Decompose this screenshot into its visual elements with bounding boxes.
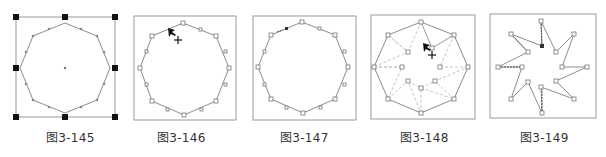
handle-top-right — [112, 14, 118, 20]
handle-right — [112, 65, 118, 71]
frame — [253, 16, 356, 120]
caption-fig-146: 图3-146 — [157, 128, 206, 145]
handle-bottom — [62, 114, 68, 120]
pen-cursor-icon — [423, 43, 436, 59]
caption-fig-145: 图3-145 — [46, 128, 95, 145]
caption-fig-147: 图3-147 — [280, 128, 329, 145]
anchor-points — [256, 20, 350, 115]
caption-fig-149: 图3-149 — [520, 128, 569, 145]
figure-3-145 — [13, 14, 118, 120]
frame — [490, 14, 596, 118]
frame — [134, 16, 236, 120]
selected-anchor-point — [540, 44, 544, 48]
pen-cursor-icon — [168, 28, 182, 44]
figure-3-148 — [371, 15, 475, 119]
handle-top-left — [13, 14, 19, 20]
figure-3-149 — [490, 14, 596, 118]
figure-3-147 — [253, 16, 356, 120]
handle-top — [62, 14, 68, 20]
anchor-points — [138, 21, 231, 117]
handle-bottom-left — [13, 114, 19, 120]
handle-bottom-right — [112, 114, 118, 120]
center-point — [64, 67, 66, 69]
added-anchor-point — [277, 27, 288, 32]
handle-left — [13, 65, 19, 71]
figure-3-146 — [134, 16, 236, 120]
caption-fig-148: 图3-148 — [400, 128, 449, 145]
